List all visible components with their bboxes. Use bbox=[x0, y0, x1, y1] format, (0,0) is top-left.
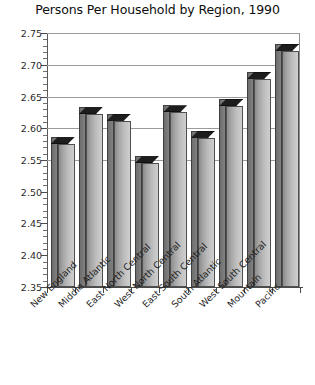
y-axis-tick-label: 2.50 bbox=[8, 187, 42, 198]
y-axis-tick-label: 2.40 bbox=[8, 250, 42, 261]
chart-title: Persons Per Household by Region, 1990 bbox=[0, 2, 315, 17]
x-axis-labels: New EnglandMiddle AtlanticEast North Cen… bbox=[0, 287, 315, 385]
y-axis-tick-label: 2.55 bbox=[8, 155, 42, 166]
bar-side-face bbox=[219, 99, 226, 287]
bar-chart: Persons Per Household by Region, 1990 2.… bbox=[0, 0, 315, 385]
y-axis-labels: 2.752.702.652.602.552.502.452.402.35 bbox=[4, 33, 42, 287]
y-axis-tick-label: 2.65 bbox=[8, 92, 42, 103]
y-axis-tick-label: 2.45 bbox=[8, 218, 42, 229]
bar-side-face bbox=[135, 156, 142, 287]
gridline bbox=[47, 33, 300, 34]
bar-side-face bbox=[79, 107, 86, 287]
bar bbox=[275, 44, 299, 287]
y-axis-tick-label: 2.60 bbox=[8, 123, 42, 134]
gridline bbox=[47, 65, 300, 66]
bar-front-face bbox=[282, 51, 299, 287]
y-axis-tick-label: 2.75 bbox=[8, 28, 42, 39]
bar-side-face bbox=[275, 44, 282, 287]
bar-side-face bbox=[51, 137, 58, 287]
y-axis-tick-label: 2.70 bbox=[8, 60, 42, 71]
